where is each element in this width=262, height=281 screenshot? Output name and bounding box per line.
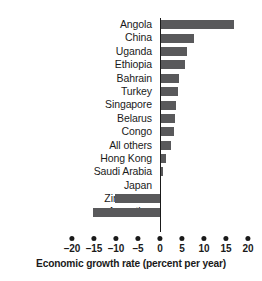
x-tick-dot <box>223 236 228 241</box>
category-label: Singapore <box>2 98 152 111</box>
x-tick-label: –15 <box>86 243 103 254</box>
category-label: Belarus <box>2 112 152 125</box>
category-label: All others <box>2 139 152 152</box>
x-tick-dot <box>201 236 206 241</box>
bar-row: Japan <box>0 179 262 192</box>
bar-row: Singapore <box>0 98 262 111</box>
x-tick-label: 15 <box>220 243 231 254</box>
x-tick-label: 5 <box>179 243 185 254</box>
bar <box>160 34 194 43</box>
x-tick-label: –5 <box>132 243 143 254</box>
bar <box>160 20 234 29</box>
bar <box>115 194 160 203</box>
category-label: Uganda <box>2 45 152 58</box>
bar <box>160 60 185 69</box>
bar-row: Zimbabwe <box>0 192 262 205</box>
bar-row: Angola <box>0 18 262 31</box>
bar <box>93 208 160 217</box>
bar <box>160 114 175 123</box>
bar <box>160 47 187 56</box>
category-label: Bahrain <box>2 72 152 85</box>
x-tick-dot <box>157 236 162 241</box>
bar-row: Congo <box>0 125 262 138</box>
category-label: Turkey <box>2 85 152 98</box>
bar-row: All others <box>0 139 262 152</box>
bar <box>160 101 176 110</box>
bar-row: Hong Kong <box>0 152 262 165</box>
x-tick-label: 0 <box>157 243 163 254</box>
category-label: Saudi Arabia <box>2 165 152 178</box>
x-tick-dot <box>91 236 96 241</box>
bar-row: Saudi Arabia <box>0 165 262 178</box>
bar-row: Turkey <box>0 85 262 98</box>
bar-row: Ethiopia <box>0 58 262 71</box>
bar-row: Uganda <box>0 45 262 58</box>
category-label: Hong Kong <box>2 152 152 165</box>
economic-growth-bar-chart: AngolaChinaUgandaEthiopiaBahrainTurkeySi… <box>0 0 262 281</box>
bar <box>160 141 171 150</box>
x-tick-label: 20 <box>242 243 253 254</box>
plot-area: AngolaChinaUgandaEthiopiaBahrainTurkeySi… <box>0 18 262 232</box>
bar <box>160 74 179 83</box>
zero-axis-line <box>160 18 161 232</box>
x-tick-dot <box>179 236 184 241</box>
x-axis-title: Economic growth rate (percent per year) <box>0 258 262 269</box>
bar-row: China <box>0 31 262 44</box>
x-axis: Economic growth rate (percent per year) … <box>0 232 262 281</box>
bar <box>160 87 178 96</box>
x-tick-dot <box>135 236 140 241</box>
bar-row: Argentina <box>0 205 262 218</box>
x-tick-dot <box>113 236 118 241</box>
category-label: Angola <box>2 18 152 31</box>
x-tick-label: –20 <box>64 243 81 254</box>
x-tick-dot <box>245 236 250 241</box>
bar-row: Bahrain <box>0 72 262 85</box>
bar <box>160 127 174 136</box>
x-tick-label: 10 <box>198 243 209 254</box>
x-tick-label: –10 <box>108 243 125 254</box>
category-label: China <box>2 31 152 44</box>
bar-row: Belarus <box>0 112 262 125</box>
category-label: Congo <box>2 125 152 138</box>
x-tick-dot <box>69 236 74 241</box>
category-label: Japan <box>2 179 152 192</box>
category-label: Ethiopia <box>2 58 152 71</box>
